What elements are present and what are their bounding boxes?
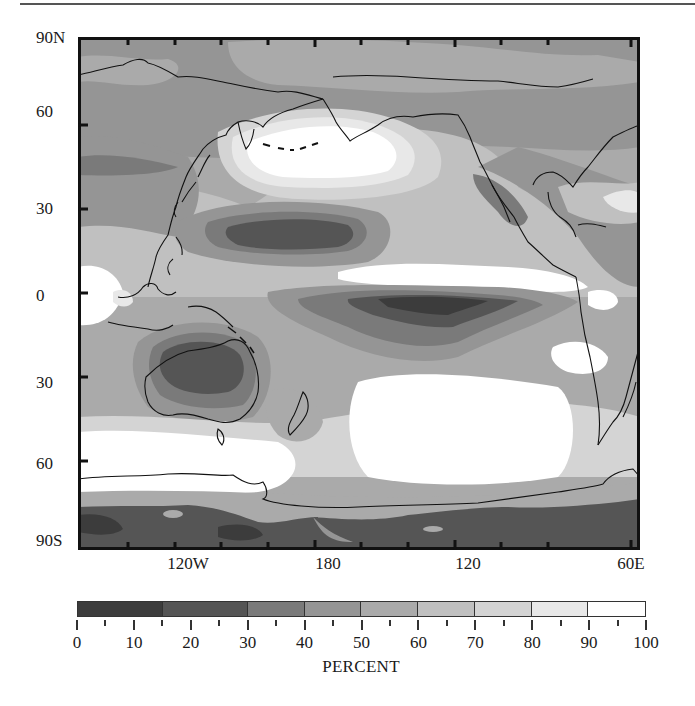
- colorbar-tick: [474, 620, 476, 630]
- longitude-label: 180: [315, 555, 341, 572]
- colorbar-tick-label: 60: [410, 633, 427, 653]
- colorbar-tick: [275, 620, 277, 626]
- colorbar-tick: [361, 620, 363, 630]
- colorbar-tick: [531, 620, 533, 630]
- colorbar-tick: [389, 620, 391, 626]
- colorbar-bin: [361, 602, 418, 616]
- longitude-label: 60E: [617, 555, 644, 572]
- latitude-label: 30: [36, 200, 76, 217]
- top-rule: [20, 3, 695, 5]
- colorbar: [77, 601, 646, 617]
- map-svg: [78, 37, 640, 550]
- latitude-label: 90S: [36, 532, 76, 549]
- longitude-label: 120W: [167, 555, 209, 572]
- colorbar-tick: [417, 620, 419, 630]
- latitude-label: 60: [36, 103, 76, 120]
- latitude-label: 60: [36, 455, 76, 472]
- colorbar-tick: [503, 620, 505, 626]
- colorbar-tick: [560, 620, 562, 626]
- colorbar-tick-label: 50: [353, 633, 370, 653]
- colorbar-tick: [104, 620, 106, 626]
- colorbar-tick-label: 30: [239, 633, 256, 653]
- map-panel: [78, 37, 640, 550]
- colorbar-tick-label: 100: [633, 633, 659, 653]
- colorbar-tick-label: 40: [296, 633, 313, 653]
- latitude-label: 0: [36, 287, 76, 304]
- latitude-label: 30: [36, 374, 76, 391]
- colorbar-bin: [248, 602, 305, 616]
- colorbar-tick-label: 80: [524, 633, 541, 653]
- colorbar-tick: [332, 620, 334, 626]
- colorbar-tick: [76, 620, 78, 630]
- colorbar-bin: [532, 602, 589, 616]
- colorbar-tick-label: 20: [182, 633, 199, 653]
- colorbar-tick: [247, 620, 249, 630]
- colorbar-tick: [617, 620, 619, 626]
- colorbar-title: PERCENT: [322, 657, 400, 677]
- colorbar-bin: [475, 602, 532, 616]
- colorbar-tick: [446, 620, 448, 626]
- longitude-label: 120: [455, 555, 481, 572]
- colorbar-bin: [163, 602, 248, 616]
- colorbar-tick: [218, 620, 220, 626]
- colorbar-tick-label: 0: [73, 633, 82, 653]
- colorbar-tick-label: 70: [467, 633, 484, 653]
- colorbar-tick: [588, 620, 590, 630]
- colorbar-bin: [588, 602, 645, 616]
- colorbar-tick: [190, 620, 192, 630]
- colorbar-bin: [78, 602, 163, 616]
- colorbar-tick: [304, 620, 306, 630]
- colorbar-bin: [305, 602, 362, 616]
- colorbar-tick: [133, 620, 135, 630]
- colorbar-tick-label: 90: [581, 633, 598, 653]
- colorbar-bin: [418, 602, 475, 616]
- colorbar-tick-label: 10: [125, 633, 142, 653]
- latitude-label: 90N: [36, 29, 76, 46]
- colorbar-tick: [161, 620, 163, 626]
- colorbar-ticks: [77, 620, 646, 630]
- colorbar-tick: [645, 620, 647, 630]
